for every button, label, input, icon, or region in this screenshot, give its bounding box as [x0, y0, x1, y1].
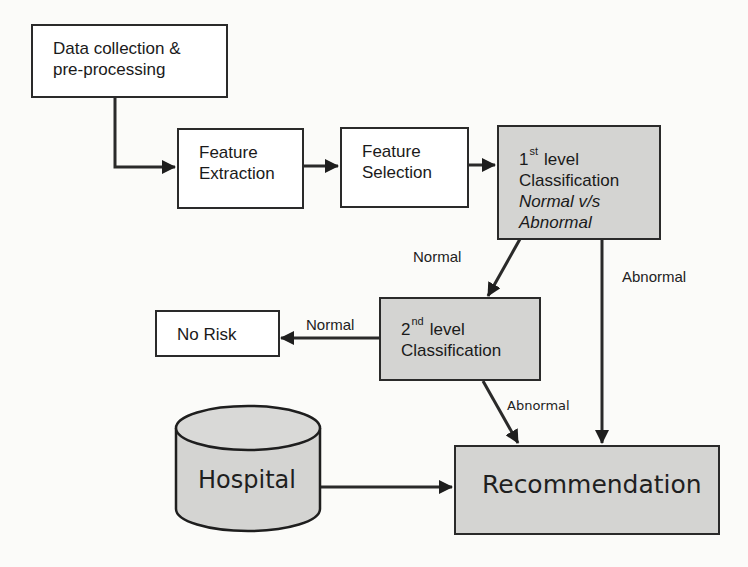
- node-data-collection-line1: Data collection &: [53, 38, 181, 59]
- node-hospital-label: Hospital: [198, 466, 296, 494]
- edge-label-second-to-no-risk: Normal: [306, 316, 354, 333]
- edge-label-second-to-recommendation: Abnormal: [507, 398, 570, 413]
- node-feature-selection-line2: Selection: [362, 162, 432, 183]
- node-no-risk: No Risk: [155, 310, 280, 357]
- node-feature-selection: Feature Selection: [340, 127, 469, 208]
- node-data-collection: Data collection & pre-processing: [31, 24, 228, 98]
- node-feature-extraction: Feature Extraction: [177, 128, 304, 209]
- flow-diagram: Data collection & pre-processing Feature…: [0, 0, 748, 567]
- node-first-level-line2: Classification: [519, 170, 619, 191]
- node-data-collection-line2: pre-processing: [53, 59, 165, 80]
- node-recommendation-label: Recommendation: [482, 474, 702, 495]
- first-level-word: level: [544, 150, 579, 169]
- node-first-level-line3: Normal v/s: [519, 191, 600, 212]
- second-level-number: 2: [401, 320, 410, 339]
- arrow-first-to-second-level: [488, 239, 520, 296]
- node-second-level-line2: Classification: [401, 340, 501, 361]
- first-level-number: 1: [519, 150, 528, 169]
- node-feature-extraction-line1: Feature: [199, 142, 258, 163]
- node-no-risk-label: No Risk: [177, 324, 237, 345]
- second-level-ordinal: nd: [411, 315, 423, 327]
- arrow-collection-to-extraction: [115, 97, 175, 167]
- edge-label-first-to-second: Normal: [413, 248, 461, 265]
- first-level-ordinal: st: [529, 145, 538, 157]
- second-level-word: level: [430, 320, 465, 339]
- node-second-level-title: 2ndlevel: [401, 319, 465, 342]
- edge-label-first-to-recommendation: Abnormal: [622, 268, 686, 285]
- node-feature-selection-line1: Feature: [362, 141, 421, 162]
- node-second-level-classification: 2ndlevel Classification: [379, 297, 541, 381]
- node-first-level-classification: 1stlevel Classification Normal v/s Abnor…: [497, 125, 661, 240]
- node-first-level-title: 1stlevel: [519, 149, 579, 172]
- node-recommendation: Recommendation: [454, 445, 720, 535]
- node-first-level-line4: Abnormal: [519, 212, 592, 233]
- node-feature-extraction-line2: Extraction: [199, 163, 275, 184]
